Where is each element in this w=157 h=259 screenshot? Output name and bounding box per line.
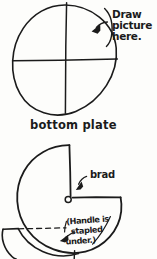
wedge-vertical-edge [69,145,70,196]
diagram-sheet: Draw picture here. bottom plate brad [0,0,157,259]
bottom-plate-circle-group [13,3,118,115]
bottom-plate-vertical-divider [65,3,66,113]
handle-note-line-3: under.) [65,234,96,246]
handle-left-edge [2,229,16,259]
callout-arrow-head [92,24,101,34]
handle-top-edge [3,229,18,230]
bottom-plate-caption: bottom plate [30,118,117,132]
brad-callout-group [76,176,87,190]
brad-arrow-shaft [79,176,87,184]
drawing-canvas: Draw picture here. bottom plate brad [0,0,157,259]
draw-here-line-3: here. [112,30,141,42]
brad-hole [65,196,71,202]
brad-label: brad [90,169,115,180]
note-left-stroke [65,221,67,232]
draw-here-annotation: Draw picture here. [112,8,152,42]
